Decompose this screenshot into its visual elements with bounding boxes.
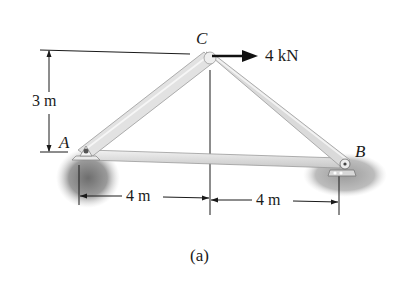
joint-c	[204, 52, 216, 64]
load-label: 4 kN	[265, 46, 299, 66]
point-label-c: C	[196, 29, 207, 49]
right-span-dimension-label: 4 m	[254, 191, 282, 209]
point-label-a: A	[59, 133, 69, 153]
member-cb	[206, 52, 350, 166]
left-span-dimension-label: 4 m	[124, 187, 152, 205]
height-dimension-label: 3 m	[30, 92, 58, 110]
member-ab	[88, 150, 340, 168]
figure-caption: (a)	[190, 246, 209, 266]
point-label-b: B	[355, 142, 365, 162]
member-ac	[78, 52, 214, 158]
